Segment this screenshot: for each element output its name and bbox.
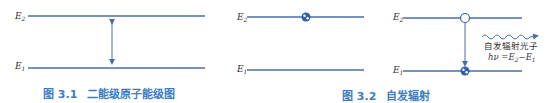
ground-electron-icon: [461, 67, 470, 76]
fig1-caption-text: 二能级原子能级图: [87, 87, 175, 101]
fig1-e2-label: E2: [14, 11, 26, 22]
figure-3-2-after: E2 E1 自发辐射光子 hν =E2−E1: [392, 12, 538, 76]
fig2b-e1-label: E1: [392, 65, 403, 76]
figure-3-1: E2 E1 图 3.1 二能级原子能级图: [14, 11, 205, 101]
energy-level-figures: E2 E1 图 3.1 二能级原子能级图 E2 E1 E2 E1 自发辐: [0, 0, 557, 103]
fig1-caption-number: 图 3.1: [43, 88, 77, 101]
empty-state-circle-icon: [461, 14, 470, 23]
fig2-caption-text: 自发辐射: [386, 89, 430, 103]
photon-label: 自发辐射光子: [484, 41, 538, 51]
fig2a-e2-label: E2: [236, 12, 248, 23]
fig2a-e1-label: E1: [236, 64, 247, 75]
excited-electron-icon: [302, 13, 311, 22]
fig1-e1-label: E1: [14, 61, 25, 72]
fig2-caption-number: 图 3.2: [342, 90, 376, 103]
photon-wave-icon: [482, 35, 536, 39]
photon-energy-equation: hν =E2−E1: [488, 52, 536, 63]
figure-3-2-before: E2 E1: [236, 12, 364, 75]
diagram-canvas: E2 E1 图 3.1 二能级原子能级图 E2 E1 E2 E1 自发辐: [0, 0, 557, 103]
fig2b-e2-label: E2: [392, 12, 404, 23]
